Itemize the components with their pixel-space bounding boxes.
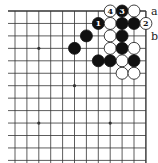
white-stone (116, 55, 128, 67)
white-stone (104, 17, 116, 29)
stone-circle (80, 30, 92, 42)
white-stone (104, 30, 116, 42)
stone-circle (116, 42, 128, 54)
black-stone: 1 (92, 17, 104, 29)
stone-circle (104, 42, 116, 54)
stone-circle (69, 42, 81, 54)
go-board: 4312 ab (0, 0, 158, 163)
stone-circle (92, 55, 104, 67)
black-stone (116, 30, 128, 42)
white-stone (128, 42, 140, 54)
stone-circle (104, 17, 116, 29)
black-stone (104, 55, 116, 67)
stone-circle (128, 5, 140, 17)
stone-circle (128, 17, 140, 29)
stone-circle (128, 67, 140, 79)
stone-circle (128, 55, 140, 67)
move-number: 3 (119, 6, 125, 16)
white-stone (128, 5, 140, 17)
move-number: 1 (96, 18, 102, 28)
stone-circle (116, 55, 128, 67)
black-stone (128, 55, 140, 67)
black-stone (116, 17, 128, 29)
star-point (109, 121, 112, 124)
black-stone (128, 17, 140, 29)
point-label-b: b (151, 30, 158, 43)
white-stone (116, 67, 128, 79)
black-stone (80, 30, 92, 42)
black-stone (69, 42, 81, 54)
white-stone (128, 67, 140, 79)
black-stone: 3 (116, 5, 128, 17)
move-number: 2 (143, 18, 149, 28)
stone-circle (104, 55, 116, 67)
black-stone (116, 42, 128, 54)
stone-circle (104, 30, 116, 42)
move-number: 4 (107, 6, 113, 16)
white-stone: 2 (140, 17, 152, 29)
black-stone (92, 55, 104, 67)
star-point (37, 121, 40, 124)
star-point (37, 47, 40, 50)
stone-circle (128, 42, 140, 54)
point-label-a: a (151, 5, 158, 18)
stone-circle (116, 30, 128, 42)
white-stone (104, 42, 116, 54)
stone-circle (116, 17, 128, 29)
stone-circle (116, 67, 128, 79)
star-point (73, 84, 76, 87)
white-stone: 4 (104, 5, 116, 17)
